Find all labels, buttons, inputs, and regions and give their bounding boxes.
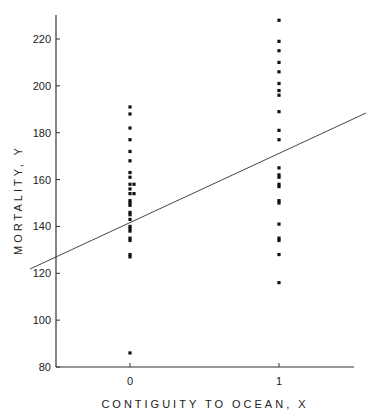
plot-area (30, 19, 366, 355)
data-point (128, 112, 131, 115)
data-point (128, 171, 131, 174)
data-point (128, 183, 131, 186)
data-point (277, 222, 280, 225)
data-point (128, 351, 131, 354)
x-tick-label: 1 (276, 375, 282, 387)
data-point (132, 183, 135, 186)
data-point (277, 176, 280, 179)
data-point (277, 70, 280, 73)
data-point (132, 192, 135, 195)
x-tick-label: 0 (127, 375, 133, 387)
y-tick-label: 80 (39, 361, 51, 373)
y-tick-label: 180 (33, 127, 51, 139)
data-point (277, 94, 280, 97)
data-point (128, 159, 131, 162)
data-point (128, 255, 131, 258)
data-point (128, 218, 131, 221)
scatter-chart: 8010012014016018020022001 CONTIGUITY TO … (0, 0, 376, 419)
data-point (128, 239, 131, 242)
data-point (128, 213, 131, 216)
data-point (128, 126, 131, 129)
data-point (277, 185, 280, 188)
data-point (128, 187, 131, 190)
data-point (128, 192, 131, 195)
data-point (128, 204, 131, 207)
data-point (277, 166, 280, 169)
y-tick-label: 200 (33, 80, 51, 92)
data-point (277, 201, 280, 204)
data-point (128, 176, 131, 179)
data-point (277, 40, 280, 43)
data-point (277, 239, 280, 242)
data-point (277, 82, 280, 85)
x-axis-title: CONTIGUITY TO OCEAN, X (101, 398, 308, 410)
data-point (277, 129, 280, 132)
data-point (277, 49, 280, 52)
data-point (128, 105, 131, 108)
data-point (277, 19, 280, 22)
data-point (277, 253, 280, 256)
data-point (128, 150, 131, 153)
y-tick-label: 120 (33, 267, 51, 279)
y-tick-label: 100 (33, 314, 51, 326)
data-point (277, 61, 280, 64)
data-point (277, 281, 280, 284)
y-tick-label: 160 (33, 174, 51, 186)
data-point (277, 110, 280, 113)
regression-line (30, 113, 366, 269)
y-tick-label: 220 (33, 33, 51, 45)
y-axis-title: MORTALITY, Y (12, 145, 24, 255)
data-point (128, 230, 131, 233)
y-tick-label: 140 (33, 220, 51, 232)
data-point (277, 89, 280, 92)
data-point (128, 138, 131, 141)
axes: 8010012014016018020022001 (33, 15, 354, 387)
data-point (277, 138, 280, 141)
